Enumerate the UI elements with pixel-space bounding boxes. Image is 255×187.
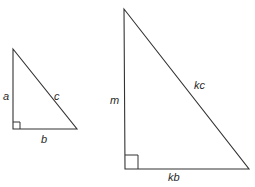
label-kb: kb xyxy=(168,171,180,183)
large-triangle: m kc kb xyxy=(110,9,249,183)
label-a: a xyxy=(3,90,9,102)
label-b: b xyxy=(41,133,47,145)
small-right-angle-marker xyxy=(13,122,20,129)
small-triangle: a c b xyxy=(3,49,77,145)
label-kc: kc xyxy=(194,79,206,91)
small-triangle-shape xyxy=(13,49,77,129)
similar-triangles-diagram: a c b m kc kb xyxy=(0,0,255,187)
label-m: m xyxy=(110,94,119,106)
large-right-angle-marker xyxy=(125,155,138,169)
label-c: c xyxy=(54,90,60,102)
large-triangle-shape xyxy=(124,9,249,169)
